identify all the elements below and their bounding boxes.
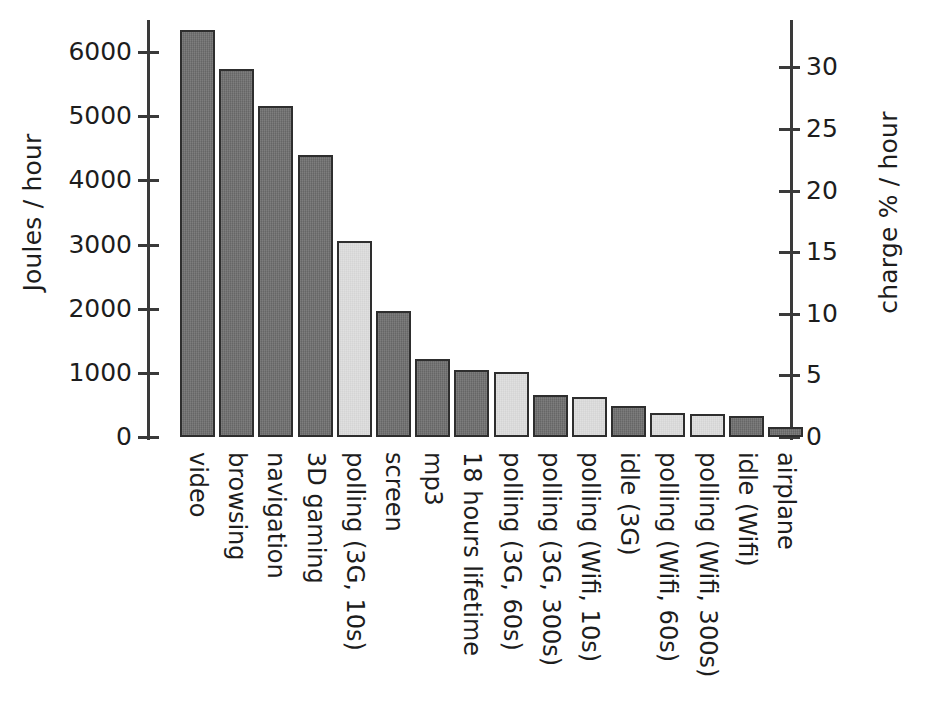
- x-axis-category-label: idle (3G): [617, 452, 641, 556]
- x-axis-category-label: polling (Wifi, 60s): [656, 452, 680, 662]
- bar: [729, 416, 764, 437]
- x-axis-category-label: airplane: [774, 452, 798, 550]
- x-axis-category-label: navigation: [264, 452, 288, 579]
- x-axis-category-label: polling (Wifi, 300s): [696, 452, 720, 677]
- bar: [650, 413, 685, 437]
- bar: [337, 241, 372, 437]
- x-axis-category-label: video: [186, 452, 210, 518]
- bar: [180, 30, 215, 437]
- x-axis-category-label: polling (3G, 10s): [343, 452, 367, 651]
- bar: [298, 155, 333, 437]
- x-axis-category-label: idle (Wifi): [735, 452, 759, 567]
- bar: [258, 106, 293, 437]
- bar: [533, 395, 568, 437]
- bar: [494, 372, 529, 437]
- bar-chart: Joules / hour charge % / hour 0100020003…: [0, 0, 938, 728]
- bar: [572, 397, 607, 437]
- bar: [376, 311, 411, 437]
- bar: [219, 69, 254, 437]
- x-axis-category-label: mp3: [421, 452, 445, 506]
- bar: [415, 359, 450, 437]
- x-axis-category-label: screen: [382, 452, 406, 532]
- x-axis-category-label: polling (Wifi, 10s): [578, 452, 602, 662]
- x-axis-category-label: 18 hours lifetime: [460, 452, 484, 656]
- x-axis-category-label: 3D gaming: [304, 452, 328, 584]
- bar: [690, 414, 725, 437]
- bar: [768, 427, 803, 437]
- x-axis-category-label: browsing: [225, 452, 249, 561]
- x-axis-category-label: polling (3G, 300s): [539, 452, 563, 666]
- x-axis-category-label: polling (3G, 60s): [500, 452, 524, 651]
- plot-area: videobrowsingnavigation3D gamingpolling …: [0, 0, 938, 728]
- bar: [454, 370, 489, 437]
- bar: [611, 406, 646, 437]
